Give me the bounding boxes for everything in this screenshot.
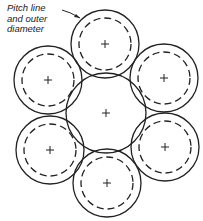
label-line-3: diameter — [7, 24, 47, 35]
center-circle-center-mark-icon — [102, 109, 110, 117]
top-center-mark-icon — [101, 40, 109, 48]
lower-right-center-mark-icon — [161, 143, 169, 151]
bottom-center-mark-icon — [103, 179, 111, 187]
lower-left-center-mark-icon — [46, 146, 54, 154]
upper-right-center-mark-icon — [160, 74, 168, 82]
label-line-1: Pitch line — [7, 3, 47, 14]
pitch-line-label: Pitch line and outer diameter — [7, 3, 47, 35]
gear-pitch-diagram: Pitch line and outer diameter — [0, 0, 203, 221]
upper-left-center-mark-icon — [44, 76, 52, 84]
